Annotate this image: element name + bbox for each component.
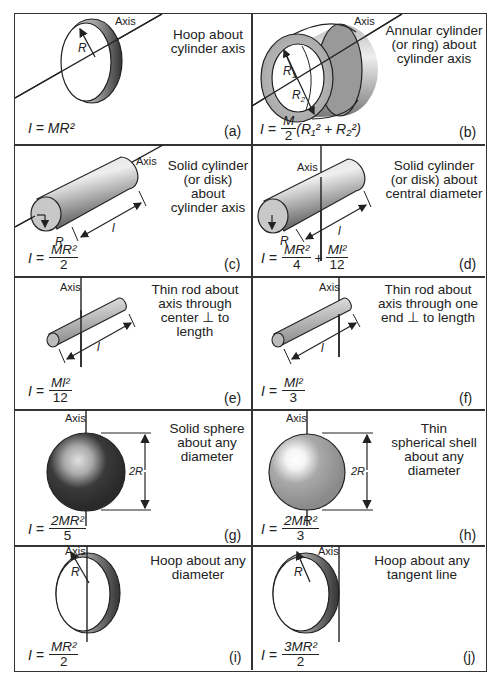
panel-formula: I = MR²2 bbox=[28, 640, 78, 669]
panel-tag: (j) bbox=[463, 649, 475, 665]
panel-formula: I = Ml²3 bbox=[261, 376, 305, 405]
svg-text:Axis: Axis bbox=[65, 546, 86, 557]
panel-description: Solid sphere about any diameter bbox=[167, 422, 247, 464]
panel-g: 2R Axis Solid sphere about any diameter … bbox=[15, 410, 251, 545]
panel-e: l Axis Thin rod about axis through cente… bbox=[15, 277, 251, 409]
panel-formula: I = Ml²12 bbox=[28, 376, 72, 405]
panel-tag: (d) bbox=[459, 256, 476, 272]
panel-description: Hoop about cylinder axis bbox=[168, 28, 248, 56]
svg-text:l: l bbox=[321, 341, 324, 355]
panel-formula: I = 2MR²3 bbox=[261, 514, 319, 543]
panel-description: Thin rod about axis through one end ⊥ to… bbox=[372, 283, 484, 325]
panel-tag: (c) bbox=[224, 256, 240, 272]
panel-formula: I = MR² bbox=[28, 120, 74, 136]
panel-c: l R Axis Solid cylinder (or disk) about … bbox=[15, 145, 251, 276]
panel-tag: (f) bbox=[459, 390, 472, 406]
panel-j: R Axis Hoop about any tangent line I = 3… bbox=[252, 546, 487, 670]
svg-text:Axis: Axis bbox=[115, 15, 136, 27]
panel-description: Annular cylinder (or ring) about cylinde… bbox=[382, 24, 486, 66]
svg-text:Axis: Axis bbox=[286, 412, 307, 424]
panel-h: 2R Axis Thin spherical shell about any d… bbox=[252, 410, 487, 545]
svg-text:Axis: Axis bbox=[354, 15, 375, 27]
svg-text:Axis: Axis bbox=[65, 412, 86, 424]
svg-text:l: l bbox=[112, 221, 115, 235]
panel-i: R Axis Hoop about any diameter I = MR²2 … bbox=[15, 546, 251, 670]
panel-description: Thin spherical shell about any diameter bbox=[382, 422, 486, 478]
panel-formula: I = MR²4 + Ml²12 bbox=[261, 243, 348, 272]
panel-tag: (b) bbox=[459, 124, 476, 140]
svg-text:Axis: Axis bbox=[318, 546, 339, 557]
panel-tag: (g) bbox=[224, 527, 241, 543]
panel-tag: (i) bbox=[229, 649, 241, 665]
svg-text:2R: 2R bbox=[350, 465, 365, 477]
panel-description: Thin rod about axis through center ⊥ to … bbox=[145, 283, 245, 339]
svg-text:l: l bbox=[97, 340, 100, 354]
panel-description: Hoop about any tangent line bbox=[367, 554, 477, 582]
svg-text:R: R bbox=[71, 565, 80, 579]
panel-description: Solid cylinder (or disk) about central d… bbox=[382, 159, 486, 201]
panel-d: l R Axis Solid cylinder (or disk) about … bbox=[252, 145, 487, 276]
panel-a: R Axis Hoop about cylinder axis I = MR² … bbox=[15, 14, 251, 144]
panel-description: Solid cylinder (or disk) about cylinder … bbox=[165, 159, 251, 215]
panel-tag: (e) bbox=[224, 390, 241, 406]
panel-f: l Axis Thin rod about axis through one e… bbox=[252, 277, 487, 409]
figure-grid: R Axis Hoop about cylinder axis I = MR² … bbox=[14, 13, 487, 672]
svg-text:Axis: Axis bbox=[136, 155, 157, 167]
radius-label: R bbox=[78, 41, 87, 55]
svg-text:R: R bbox=[294, 565, 303, 579]
svg-text:l: l bbox=[338, 224, 341, 238]
panel-formula: I = 3MR²2 bbox=[261, 640, 319, 669]
svg-text:Axis: Axis bbox=[297, 161, 318, 173]
panel-formula: I = 2MR²5 bbox=[28, 514, 86, 543]
panel-description: Hoop about any diameter bbox=[145, 554, 251, 582]
panel-tag: (h) bbox=[459, 527, 476, 543]
svg-text:Axis: Axis bbox=[60, 281, 81, 293]
svg-text:Axis: Axis bbox=[319, 281, 340, 293]
svg-text:2R: 2R bbox=[128, 465, 143, 477]
panel-formula: I = MR²2 bbox=[28, 243, 78, 272]
panel-tag: (a) bbox=[224, 123, 241, 139]
panel-formula: I = M2 (R₁² + R₂²) bbox=[260, 114, 361, 143]
panel-b: R1 R2 Axis Annular cylinder (or ring) ab… bbox=[252, 14, 487, 144]
